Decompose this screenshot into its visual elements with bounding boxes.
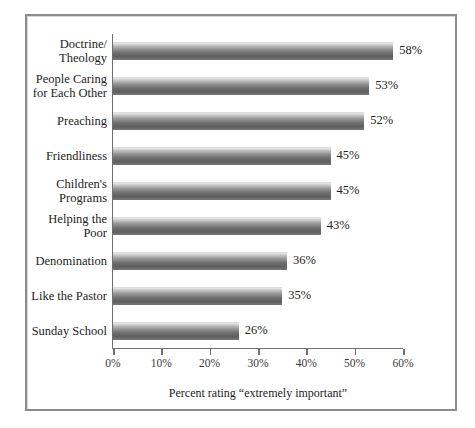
category-label: Preaching — [27, 114, 107, 128]
bar-row: 36% — [113, 252, 403, 270]
category-label: Like the Pastor — [27, 289, 107, 303]
axis-tick — [258, 349, 260, 355]
axis-tick — [355, 349, 357, 355]
x-axis-ticks: 0%10%20%30%40%50%60% — [113, 349, 403, 375]
category-label-column: Doctrine/ TheologyPeople Caring for Each… — [27, 34, 107, 348]
category-label: People Caring for Each Other — [27, 72, 107, 100]
bar — [113, 42, 393, 60]
bar-row: 45% — [113, 182, 403, 200]
category-label: Sunday School — [27, 324, 107, 338]
bar-row: 53% — [113, 77, 403, 95]
bar-row: 35% — [113, 287, 403, 305]
bar-row: 43% — [113, 217, 403, 235]
bar-value-label: 45% — [337, 183, 360, 198]
bar — [113, 217, 321, 235]
bar-value-label: 43% — [327, 218, 350, 233]
bar — [113, 112, 364, 130]
axis-tick-label: 30% — [247, 357, 268, 369]
bar-value-label: 36% — [293, 253, 316, 268]
category-label: Children's Programs — [27, 177, 107, 205]
axis-tick-label: 10% — [151, 357, 172, 369]
category-label: Denomination — [27, 254, 107, 268]
axis-tick — [210, 349, 212, 355]
bar — [113, 322, 239, 340]
axis-tick-label: 20% — [199, 357, 220, 369]
bar-row: 45% — [113, 147, 403, 165]
axis-tick-label: 0% — [105, 357, 120, 369]
bar — [113, 287, 282, 305]
axis-tick — [306, 349, 308, 355]
bar — [113, 182, 331, 200]
category-label: Friendliness — [27, 149, 107, 163]
bar-row: 58% — [113, 42, 403, 60]
plot-area: Doctrine/ TheologyPeople Caring for Each… — [112, 34, 403, 349]
figure: • • • • • • Doctrine/ TheologyPeople Car… — [0, 0, 475, 428]
axis-tick — [113, 349, 115, 355]
category-label: Helping the Poor — [27, 212, 107, 240]
axis-tick-label: 50% — [344, 357, 365, 369]
bar — [113, 77, 369, 95]
bar-row: 52% — [113, 112, 403, 130]
bar — [113, 252, 287, 270]
axis-tick-label: 40% — [296, 357, 317, 369]
axis-tick — [403, 349, 405, 355]
category-label: Doctrine/ Theology — [27, 37, 107, 65]
bar-row: 26% — [113, 322, 403, 340]
bar-value-label: 35% — [288, 288, 311, 303]
chart-panel: Doctrine/ TheologyPeople Caring for Each… — [25, 14, 457, 411]
bar — [113, 147, 331, 165]
bar-value-label: 53% — [375, 78, 398, 93]
x-axis-caption: Percent rating “extremely important” — [113, 386, 403, 401]
bar-value-label: 52% — [370, 113, 393, 128]
bar-value-label: 58% — [399, 43, 422, 58]
bar-value-label: 26% — [245, 323, 268, 338]
axis-tick — [161, 349, 163, 355]
axis-tick-label: 60% — [392, 357, 413, 369]
bar-value-label: 45% — [337, 148, 360, 163]
